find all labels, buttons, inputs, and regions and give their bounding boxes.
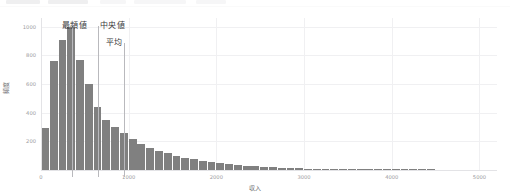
histogram-bar (155, 151, 163, 170)
histogram-bar (50, 61, 58, 170)
x-tick-label: 3000 (297, 174, 310, 180)
toolbar-chip[interactable] (134, 0, 186, 4)
histogram-bar (59, 40, 67, 170)
annotation-line-median (98, 26, 99, 177)
gridline-vertical (479, 18, 480, 170)
histogram-bar (199, 161, 207, 170)
gridline-horizontal (41, 84, 497, 85)
histogram-bar (208, 162, 216, 170)
annotation-label-median: 中央値 (100, 19, 125, 30)
histogram-bar (129, 139, 137, 170)
histogram-bar (216, 163, 224, 170)
annotation-label-mean: 平均 (106, 36, 123, 47)
histogram-bar (76, 60, 84, 170)
gridline-vertical (216, 18, 217, 170)
toolbar-chip[interactable] (100, 0, 126, 4)
x-tick-label: 4000 (385, 174, 398, 180)
histogram-bar (190, 159, 198, 170)
gridline-horizontal (41, 113, 497, 114)
histogram-bar (111, 127, 119, 170)
gridline-horizontal (41, 55, 497, 56)
histogram-bar (164, 153, 172, 170)
annotation-line-mode (72, 26, 73, 177)
histogram-bar (41, 128, 49, 170)
x-axis-line (41, 170, 497, 171)
y-tick-label: 1000 (23, 24, 36, 30)
gridline-vertical (304, 18, 305, 170)
y-tick-label: 400 (26, 110, 36, 116)
y-tick-label: 800 (26, 52, 36, 58)
histogram-bar (85, 84, 93, 170)
histogram-bar (137, 144, 145, 170)
x-tick-label: 0 (39, 174, 42, 180)
gridline-vertical (392, 18, 393, 170)
histogram-bar (102, 120, 110, 170)
histogram-figure: 頻度 2004006008001000 01000200030004000500… (0, 7, 510, 194)
annotation-line-mean (124, 43, 125, 177)
y-axis-tick-labels: 2004006008001000 (0, 7, 36, 194)
x-tick-label: 5000 (473, 174, 486, 180)
x-axis-title: 収入 (0, 183, 510, 192)
top-toolbar-fragment (0, 0, 510, 7)
toolbar-chip[interactable] (196, 0, 226, 4)
y-axis-line (41, 18, 42, 170)
y-tick-label: 600 (26, 81, 36, 87)
annotation-label-mode: 最頻値 (62, 19, 87, 30)
toolbar-chip[interactable] (48, 0, 88, 4)
histogram-bar (146, 148, 154, 170)
y-tick-label: 200 (26, 138, 36, 144)
histogram-bar (173, 156, 181, 170)
histogram-bar (181, 158, 189, 170)
x-tick-label: 2000 (210, 174, 223, 180)
toolbar-chip[interactable] (6, 0, 40, 4)
